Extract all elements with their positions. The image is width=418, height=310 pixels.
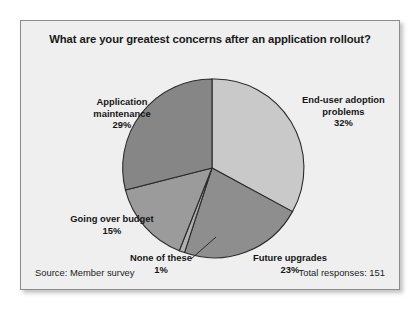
pie-chart bbox=[103, 59, 321, 277]
slice-label-going-over-budget: Going over budget 15% bbox=[58, 213, 166, 236]
slice-label-app-maint-line1: Application bbox=[96, 96, 147, 107]
slice-label-going-over-budget-text: Going over budget bbox=[70, 213, 153, 224]
figure-frame: What are your greatest concerns after an… bbox=[20, 20, 400, 290]
slice-label-end-user-adoption-problems: End-user adoption problems 32% bbox=[302, 94, 385, 129]
slice-value-going-over-budget: 15% bbox=[58, 225, 166, 237]
slice-value-end-user: 32% bbox=[302, 117, 385, 129]
slice-label-app-maint-line2: maintenance bbox=[93, 108, 150, 119]
page-title: What are your greatest concerns after an… bbox=[21, 33, 399, 45]
slice-label-end-user-line1: End-user adoption bbox=[302, 94, 385, 105]
slice-label-application-maintenance: Application maintenance 29% bbox=[76, 96, 168, 131]
slice-value-application-maintenance: 29% bbox=[76, 119, 168, 131]
total-responses: Total responses: 151 bbox=[298, 267, 385, 278]
slice-label-future-upgrades-text: Future upgrades bbox=[253, 252, 327, 263]
source-note: Source: Member survey bbox=[35, 267, 135, 278]
slice-label-none-of-these-text: None of these bbox=[130, 252, 192, 263]
slice-label-end-user-line2: problems bbox=[322, 106, 364, 117]
